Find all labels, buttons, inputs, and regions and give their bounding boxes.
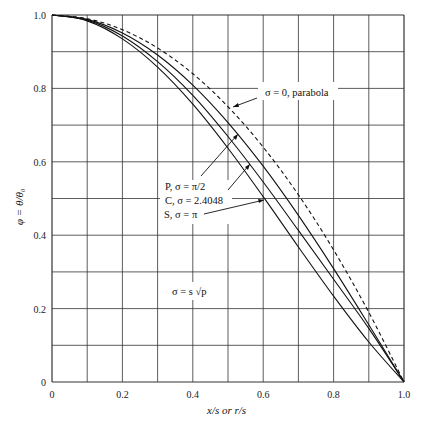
x-tick-label: 0 [50, 389, 55, 400]
x-tick-label: 0.2 [116, 389, 129, 400]
chart: 00.20.40.60.81.000.20.40.60.81.0 σ = 0, … [0, 0, 424, 431]
y-axis-label: φ = θ/θ₀ [13, 188, 25, 225]
y-tick-label: 0.4 [34, 230, 47, 241]
y-tick-label: 1.0 [34, 10, 47, 21]
y-tick-label: 0.8 [34, 83, 47, 94]
x-tick-label: 0.8 [327, 389, 340, 400]
x-tick-label: 1.0 [398, 389, 411, 400]
x-axis-label: x/s or r/s [206, 404, 246, 416]
y-tick-label: 0.6 [34, 157, 47, 168]
y-tick-label: 0.2 [34, 304, 47, 315]
parabola-label: σ = 0, parabola [265, 87, 329, 98]
x-tick-label: 0.4 [187, 389, 200, 400]
x-tick-label: 0.6 [257, 389, 270, 400]
sigma-definition: σ = s √p [172, 286, 207, 297]
s-label: S, σ = π [164, 209, 198, 220]
y-tick-label: 0 [41, 377, 46, 388]
parabola-arrowhead-icon [233, 103, 239, 107]
p-label: P, σ = π/2 [165, 181, 205, 192]
c-label: C, σ = 2.4048 [165, 195, 223, 206]
